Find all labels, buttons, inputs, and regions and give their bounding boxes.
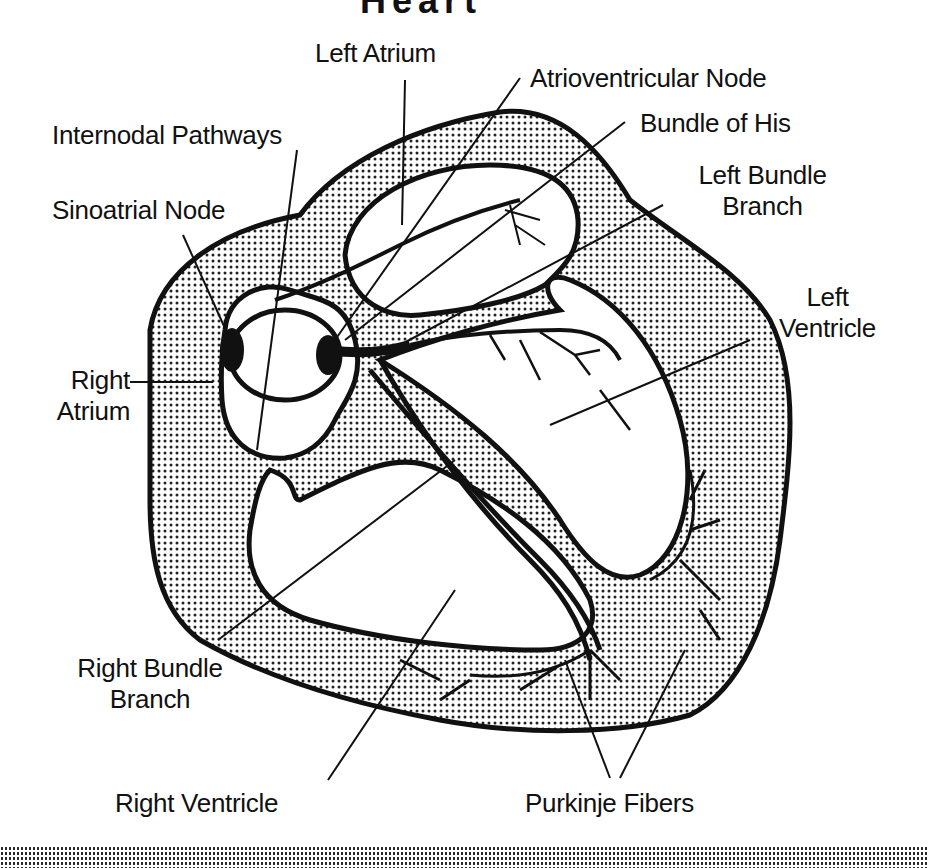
label-sinoatrial-node: Sinoatrial Node [52, 195, 225, 226]
label-right-ventricle: Right Ventricle [115, 788, 278, 819]
label-left-bundle-branch: Left Bundle Branch [675, 160, 850, 222]
label-right-atrium: Right Atrium [30, 365, 130, 427]
label-left-ventricle-line1: Left [760, 282, 895, 313]
stippled-footer-band [0, 846, 929, 868]
label-right-bundle-branch: Right Bundle Branch [70, 653, 230, 715]
label-left-bundle-branch-line2: Branch [675, 191, 850, 222]
label-right-bundle-branch-line1: Right Bundle [70, 653, 230, 684]
label-purkinje-fibers: Purkinje Fibers [525, 788, 694, 819]
label-internodal-pathways: Internodal Pathways [52, 120, 282, 151]
label-left-ventricle: Left Ventricle [760, 282, 895, 344]
label-left-atrium: Left Atrium [315, 38, 436, 69]
label-right-bundle-branch-line2: Branch [70, 684, 230, 715]
sinoatrial-node [220, 328, 244, 372]
label-atrioventricular-node: Atrioventricular Node [530, 63, 766, 94]
label-right-atrium-line2: Atrium [30, 396, 130, 427]
label-left-bundle-branch-line1: Left Bundle [675, 160, 850, 191]
label-bundle-of-his: Bundle of His [640, 108, 791, 139]
label-left-ventricle-line2: Ventricle [760, 313, 895, 344]
label-right-atrium-line1: Right [30, 365, 130, 396]
